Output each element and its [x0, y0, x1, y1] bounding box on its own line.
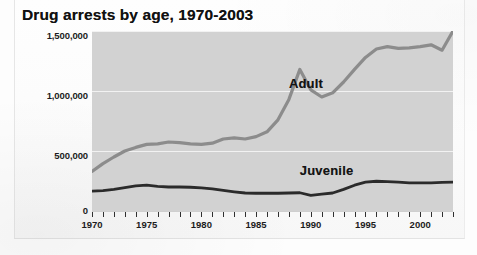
x-tick-1972	[114, 212, 115, 217]
x-tick-1973	[125, 212, 126, 217]
x-tick-1994	[355, 212, 356, 217]
x-tick-2001	[431, 212, 432, 217]
x-tick-1997	[387, 212, 388, 217]
x-tick-label-1995: 1995	[355, 219, 376, 230]
x-tick-1981	[212, 212, 213, 217]
x-tick-1982	[223, 212, 224, 217]
x-tick-1971	[103, 212, 104, 217]
y-tick-label-0: 0	[4, 205, 88, 216]
x-tick-1989	[300, 212, 301, 217]
x-tick-1999	[409, 212, 410, 217]
x-tick-1992	[333, 212, 334, 217]
x-axis: 1970197519801985199019952000	[92, 211, 453, 241]
x-tick-1974	[136, 212, 137, 217]
x-tick-1970	[92, 212, 93, 217]
x-tick-label-2000: 2000	[410, 219, 431, 230]
plot-area: Adult Juvenile	[92, 31, 453, 211]
y-tick-label-1500000: 1,500,000	[4, 30, 88, 41]
x-tick-1985	[256, 212, 257, 217]
line-adult	[92, 31, 453, 171]
x-tick-1976	[158, 212, 159, 217]
line-juvenile	[92, 181, 453, 195]
x-tick-2003	[453, 212, 454, 217]
x-tick-2000	[420, 212, 421, 217]
x-tick-1975	[147, 212, 148, 217]
x-tick-1995	[365, 212, 366, 217]
x-tick-label-1970: 1970	[81, 219, 102, 230]
x-tick-1978	[180, 212, 181, 217]
x-tick-1993	[344, 212, 345, 217]
x-tick-1988	[289, 212, 290, 217]
x-tick-label-1985: 1985	[246, 219, 267, 230]
x-tick-1996	[376, 212, 377, 217]
x-tick-1986	[267, 212, 268, 217]
series-label-juvenile: Juvenile	[300, 163, 354, 178]
x-tick-1983	[234, 212, 235, 217]
x-tick-label-1975: 1975	[136, 219, 157, 230]
y-tick-label-500000: 500,000	[4, 150, 88, 161]
x-tick-1998	[398, 212, 399, 217]
x-tick-label-1980: 1980	[191, 219, 212, 230]
x-tick-1991	[322, 212, 323, 217]
series-lines	[92, 31, 453, 211]
x-tick-1977	[169, 212, 170, 217]
x-tick-2002	[442, 212, 443, 217]
x-tick-1984	[245, 212, 246, 217]
x-tick-label-1990: 1990	[300, 219, 321, 230]
series-label-adult: Adult	[289, 76, 323, 91]
x-tick-1979	[190, 212, 191, 217]
x-tick-1990	[311, 212, 312, 217]
x-tick-1987	[278, 212, 279, 217]
y-axis: 1,500,000 1,000,000 500,000 0	[0, 0, 88, 255]
x-tick-1980	[201, 212, 202, 217]
chart-page: Drug arrests by age, 1970-2003 1,500,000…	[0, 0, 477, 255]
y-tick-label-1000000: 1,000,000	[4, 90, 88, 101]
